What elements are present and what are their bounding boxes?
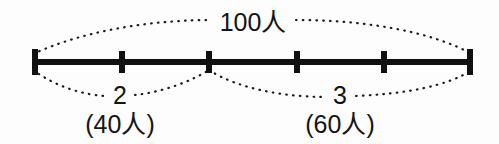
- part1-brace-left-dotted-icon: [33, 70, 106, 96]
- total-label: 100人: [220, 2, 287, 38]
- part-count-label-2: (60人): [305, 104, 374, 140]
- part1-brace-right-dotted-icon: [135, 70, 209, 95]
- total-brace-left-dotted-icon: [33, 20, 212, 54]
- ratio-diagram: 100人 2 (40人) 3 (60人): [0, 0, 499, 144]
- part2-brace-left-dotted-icon: [209, 70, 326, 97]
- part2-brace-right-dotted-icon: [356, 70, 472, 96]
- total-brace-right-dotted-icon: [296, 20, 472, 54]
- part-count-label-1: (40人): [85, 104, 154, 140]
